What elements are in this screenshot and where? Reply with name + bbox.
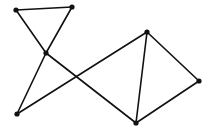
graph-edges <box>16 7 199 123</box>
graph-node-A <box>13 7 18 12</box>
graph-node-F <box>14 111 19 116</box>
graph-node-E <box>196 78 201 83</box>
graph-edge-E-G <box>136 81 199 123</box>
graph-edge-A-B <box>16 7 72 10</box>
graph-edge-B-C <box>46 7 72 53</box>
graph-node-G <box>133 120 138 125</box>
graph-node-B <box>69 4 74 9</box>
graph-nodes <box>13 4 201 125</box>
graph-diagram <box>0 0 212 128</box>
graph-node-C <box>43 50 48 55</box>
graph-edge-D-G <box>136 32 147 123</box>
graph-edge-D-E <box>147 32 199 81</box>
graph-edge-A-C <box>16 10 46 53</box>
graph-node-D <box>144 29 149 34</box>
